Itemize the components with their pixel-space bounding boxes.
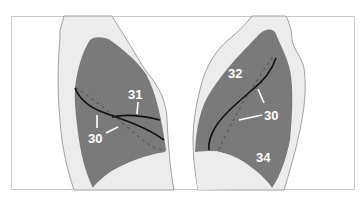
right-label-34: 34 (256, 150, 271, 165)
right-label-32: 32 (228, 66, 242, 81)
right-label-30: 30 (264, 108, 278, 123)
left-label-31: 31 (128, 87, 142, 102)
left-label-30: 30 (88, 131, 102, 146)
left-leader-31 (137, 102, 138, 114)
lung-diagram: 31 30 32 30 34 (0, 0, 364, 199)
